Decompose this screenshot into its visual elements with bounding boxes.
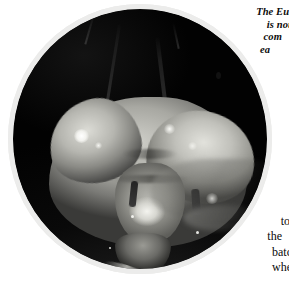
body-text-bottom: f to the batch when [160,198,289,276]
eye-highlight-d [188,142,197,150]
body-line-5: when [160,260,289,276]
eye-highlight-a [74,129,89,143]
dust-speck [109,247,111,249]
frontal-ridge-upper [123,149,177,159]
eye-highlight-c [164,124,175,134]
body-line-1: f [160,198,289,214]
caption-top-line-2: is nou [168,19,289,32]
caption-top-line-4: ea [168,44,289,57]
body-line-2: to [160,214,289,230]
caption-top-line-1: The Europ [168,6,289,19]
caption-top-line-3: com [168,31,289,44]
pseudopupil [216,72,221,79]
caption-text-top: The Europ is nou com ea [168,6,289,56]
body-line-4: batch [160,245,289,261]
dust-speck [131,215,134,218]
page-canvas: The Europ is nou com ea f to the batch w… [0,0,289,281]
body-line-3: the [160,229,289,245]
eye-highlight-b [95,142,102,149]
